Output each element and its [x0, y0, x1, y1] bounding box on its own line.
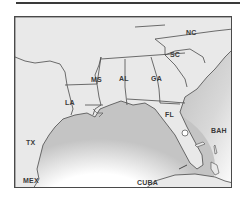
map-svg — [15, 17, 232, 188]
label-florida: FL — [165, 111, 174, 118]
label-louisiana: LA — [65, 99, 75, 106]
label-mexico: MEX — [23, 177, 39, 184]
label-cuba: CUBA — [137, 179, 158, 186]
label-alabama: AL — [119, 75, 129, 82]
map-frame: TX LA MS AL GA SC NC FL MEX CUBA BAH — [14, 16, 232, 188]
top-rule — [16, 2, 240, 4]
lake-okeechobee — [182, 130, 188, 136]
label-texas: TX — [26, 139, 35, 146]
label-south-carolina: SC — [170, 51, 180, 58]
label-bahamas: BAH — [211, 127, 227, 134]
label-north-carolina: NC — [186, 29, 197, 36]
label-georgia: GA — [151, 75, 162, 82]
label-mississippi: MS — [91, 76, 102, 83]
